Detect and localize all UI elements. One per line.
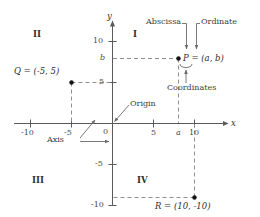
quadrant-label-III: III (32, 176, 44, 185)
ordinate-leader (197, 24, 201, 50)
xtick-label-10: 10 (189, 129, 199, 137)
point-P (176, 56, 180, 60)
xtick-label-5: 5 (151, 129, 156, 137)
point-label-R: R = (10, -10) (155, 202, 210, 211)
callout-axis: Axis (47, 136, 64, 144)
xtick-label-neg10: -10 (21, 129, 34, 137)
quadrant-label-I: I (133, 30, 137, 39)
callout-coordinates: Coordinates (167, 84, 216, 92)
abscissa-leader (182, 24, 187, 50)
point-label-P: P = (a, b) (183, 54, 224, 63)
coordinate-plane-figure: -10 -5 0 5 a 10 10 b 5 -5 -10 x y II I I… (0, 0, 260, 217)
ytick-label-b: b (100, 54, 105, 62)
callout-ordinate: Ordinate (201, 18, 237, 26)
callout-origin: Origin (130, 100, 156, 108)
point-P-prefix: P = ( (183, 53, 205, 63)
point-Q (69, 80, 73, 84)
ytick-label-5: 5 (99, 78, 104, 86)
origin-leader (115, 105, 130, 122)
y-axis-label: y (107, 12, 112, 21)
point-R (192, 195, 196, 199)
callout-abscissa: Abscissa (146, 18, 181, 26)
ytick-label-neg5: -5 (95, 160, 103, 168)
xtick-label-a: a (176, 129, 181, 137)
quadrant-label-IV: IV (137, 176, 148, 185)
ytick-label-neg10: -10 (91, 201, 104, 209)
x-axis-label: x (231, 119, 236, 128)
quadrant-label-II: II (33, 30, 41, 39)
xtick-label-zero: 0 (103, 128, 108, 136)
coordinates-brace (180, 64, 192, 83)
point-label-Q: Q = (-5, 5) (14, 67, 59, 76)
ytick-label-10: 10 (93, 37, 103, 45)
xtick-label-neg5: -5 (64, 129, 72, 137)
point-P-suffix: ) (221, 53, 224, 63)
